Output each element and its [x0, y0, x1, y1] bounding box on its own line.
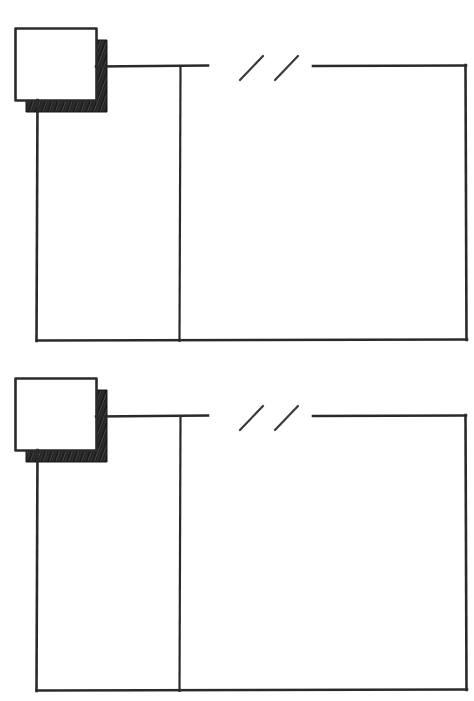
sketch-svg [0, 0, 474, 701]
top-rail-left-segment [96, 416, 208, 417]
bottom-edge-bottom [37, 690, 467, 691]
top-rail-right-segment [313, 416, 466, 417]
left-edge-top [37, 100, 38, 341]
left-edge-bottom [37, 450, 38, 691]
diagram-canvas [0, 0, 474, 701]
shaded-square-top[interactable] [16, 29, 97, 101]
right-edge-bottom [466, 415, 467, 690]
bottom-edge-top [37, 340, 467, 341]
shaded-square-bottom[interactable] [16, 379, 97, 451]
top-rail-right-segment [313, 66, 466, 67]
vertical-divider-bottom [180, 416, 181, 691]
right-edge-top [466, 65, 467, 340]
vertical-divider-top [180, 66, 181, 341]
top-rail-left-segment [96, 66, 208, 67]
